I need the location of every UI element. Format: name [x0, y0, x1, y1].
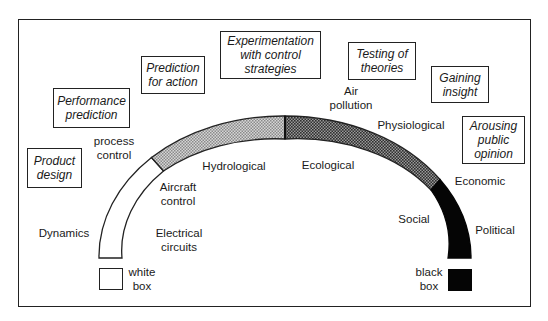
purpose-box-experimentation: Experimentation with control strategies	[220, 31, 321, 79]
purpose-label: Arousing	[470, 119, 517, 133]
purpose-label: prediction	[65, 108, 117, 122]
purpose-label: Gaining	[439, 71, 480, 85]
purpose-label: theories	[361, 61, 404, 75]
label-physiological: Physiological	[374, 118, 448, 132]
white-box-swatch	[99, 268, 123, 290]
black-box-swatch	[448, 269, 472, 291]
purpose-label: strategies	[244, 62, 296, 76]
purpose-label: Testing of	[356, 47, 408, 61]
purpose-label: Product	[34, 154, 75, 168]
label-ecological: Ecological	[298, 158, 358, 172]
purpose-box-performance-prediction: Performance prediction	[53, 88, 130, 128]
purpose-box-product-design: Product design	[27, 148, 82, 188]
purpose-label: Performance	[57, 94, 126, 108]
label-dynamics: Dynamics	[36, 226, 92, 240]
label-aircraft-control: Aircraft control	[151, 180, 205, 208]
label-hydrological: Hydrological	[198, 159, 270, 173]
label-economic: Economic	[451, 174, 509, 188]
purpose-box-arousing-public-opinion: Arousing public opinion	[462, 116, 525, 164]
label-process-control: process control	[89, 134, 139, 162]
black-box-segment	[431, 180, 471, 259]
label-electrical-circuits: Electrical circuits	[152, 226, 206, 254]
purpose-label: design	[37, 168, 72, 182]
purpose-label: opinion	[474, 147, 513, 161]
legend-black-box-label: black box	[412, 265, 446, 293]
purpose-label: Prediction	[146, 61, 199, 75]
purpose-label: insight	[443, 85, 478, 99]
purpose-label: Experimentation	[227, 34, 314, 48]
purpose-label: with control	[240, 48, 301, 62]
label-air-pollution: Air pollution	[325, 84, 377, 112]
label-social: Social	[394, 212, 434, 226]
purpose-label: for action	[148, 75, 197, 89]
purpose-box-testing-of-theories: Testing of theories	[348, 42, 416, 80]
legend-white-box-label: white box	[125, 265, 159, 293]
purpose-label: public	[478, 133, 509, 147]
label-political: Political	[472, 223, 518, 237]
purpose-box-prediction-for-action: Prediction for action	[141, 56, 205, 94]
purpose-box-gaining-insight: Gaining insight	[431, 66, 489, 103]
